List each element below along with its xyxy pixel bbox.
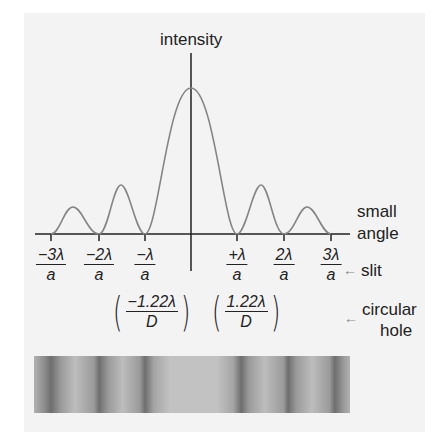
right-paren: ) [181,292,190,332]
slit-tick-numerator: +λ [226,245,247,265]
slit-tick-denominator: a [280,265,289,285]
circular-hole-label-line2: hole [380,321,412,341]
slit-arrow-icon: ← [343,262,357,278]
fringe-pattern-strip [34,356,350,413]
slit-tick-denominator: a [47,265,56,285]
slit-tick-denominator: a [141,265,150,285]
slit-tick-label: 2λ a [274,245,295,285]
circular-denominator: D [240,312,252,332]
left-paren: ( [212,292,221,332]
circular-numerator: 1.22λ [225,292,268,312]
slit-tick-label: −λ a [134,245,155,285]
slit-tick-label: 3λ a [321,245,342,285]
circular-fraction: 1.22λ D [225,292,268,332]
slit-tick-label: −2λ a [84,245,114,285]
slit-label: slit [361,261,382,281]
slit-tick-numerator: 3λ [321,245,342,265]
slit-tick-numerator: −λ [134,245,155,265]
slit-tick-denominator: a [95,265,104,285]
slit-tick-denominator: a [327,265,336,285]
circular-tick-label-negative: ( −1.22λ D ) [110,292,194,332]
right-paren: ) [271,292,280,332]
diffraction-plot [0,0,440,445]
circular-hole-label-line1: circular [362,300,417,320]
circular-denominator: D [146,312,158,332]
slit-tick-label: +λ a [226,245,247,285]
intensity-axis-label: intensity [160,30,222,50]
circular-hole-arrow-icon: ← [344,310,358,326]
angle-axis-label-line2: angle [357,224,399,244]
circular-fraction: −1.22λ D [126,292,178,332]
left-paren: ( [113,292,122,332]
slit-tick-denominator: a [233,265,242,285]
slit-tick-numerator: −3λ [36,245,66,265]
angle-axis-label-line1: small [357,202,397,222]
circular-tick-label-positive: ( 1.22λ D ) [209,292,283,332]
circular-numerator: −1.22λ [126,292,178,312]
slit-tick-numerator: 2λ [274,245,295,265]
slit-tick-label: −3λ a [36,245,66,285]
slit-tick-numerator: −2λ [84,245,114,265]
